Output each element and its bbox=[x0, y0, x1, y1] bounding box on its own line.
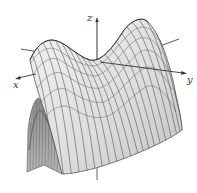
surface-plot bbox=[0, 0, 197, 193]
x-axis-label: x bbox=[13, 80, 19, 90]
z-axis-arrow-icon bbox=[95, 17, 98, 22]
z-axis-label: z bbox=[87, 13, 92, 23]
x-axis bbox=[18, 74, 36, 78]
y-axis-label: y bbox=[187, 75, 193, 85]
back-axis-right bbox=[160, 39, 179, 46]
